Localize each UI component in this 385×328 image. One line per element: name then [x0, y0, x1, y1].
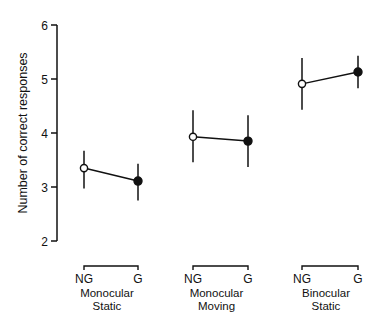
group-series	[298, 56, 362, 110]
y-tick-label: 6	[41, 19, 48, 33]
condition-label-ng: NG	[184, 272, 202, 286]
x-group-label: NGGMonocularMoving	[184, 266, 253, 312]
group-label-line1: Binocular	[302, 287, 350, 299]
condition-label-ng: NG	[75, 272, 93, 286]
connecting-line	[302, 72, 358, 84]
group-series	[189, 110, 252, 167]
y-tick-label: 4	[41, 127, 48, 141]
x-group-label: NGGMonocularStatic	[75, 266, 143, 312]
y-axis: 23456 Number of correct responses	[16, 19, 57, 249]
x-group-label: NGGBinocularStatic	[293, 266, 363, 312]
y-tick-label: 5	[41, 73, 48, 87]
condition-label-ng: NG	[293, 272, 311, 286]
connecting-line	[84, 168, 138, 181]
y-tick-label: 3	[41, 181, 48, 195]
x-axis-groups: NGGMonocularStaticNGGMonocularMovingNGGB…	[75, 266, 363, 312]
group-label-line1: Monocular	[190, 287, 244, 299]
y-axis-label: Number of correct responses	[16, 52, 30, 213]
group-label-line2: Static	[93, 300, 122, 312]
group-bracket	[302, 266, 358, 270]
group-label-line2: Static	[312, 300, 341, 312]
filled-marker	[134, 177, 142, 185]
group-series	[80, 151, 142, 201]
group-bracket	[193, 266, 248, 270]
y-tick-label: 2	[41, 235, 48, 249]
connecting-line	[193, 137, 248, 141]
condition-label-g: G	[353, 272, 362, 286]
filled-marker	[244, 137, 252, 145]
open-marker	[298, 80, 305, 87]
plot-area	[80, 56, 362, 201]
group-label-line1: Monocular	[80, 287, 134, 299]
open-marker	[80, 165, 87, 172]
filled-marker	[354, 68, 362, 76]
group-bracket	[84, 266, 138, 270]
condition-label-g: G	[243, 272, 252, 286]
open-marker	[189, 133, 196, 140]
group-label-line2: Moving	[198, 300, 235, 312]
condition-label-g: G	[133, 272, 142, 286]
chart: 23456 Number of correct responses NGGMon…	[0, 0, 385, 328]
